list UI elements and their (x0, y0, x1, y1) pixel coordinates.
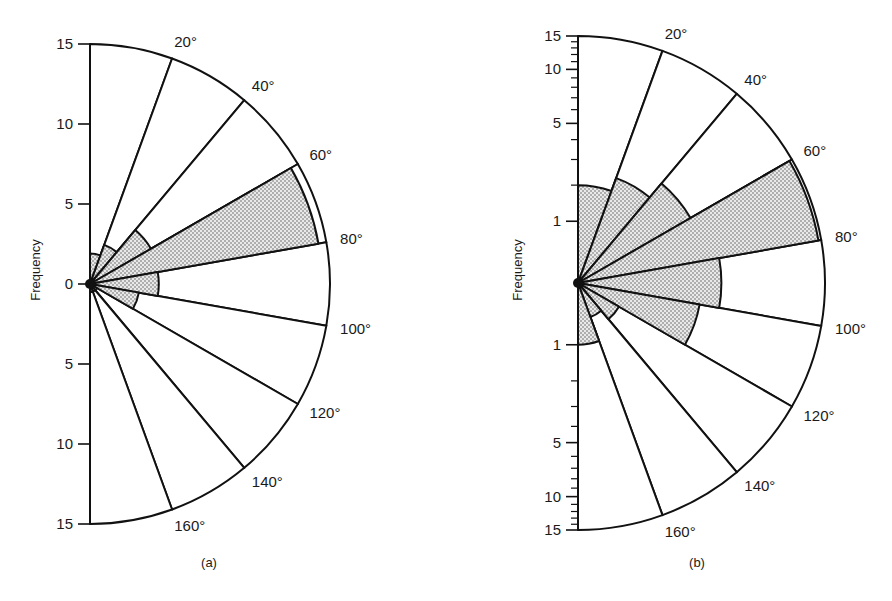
angle-label: 40° (252, 77, 275, 94)
axis-tick-label: 15 (56, 35, 73, 52)
axis-tick-label: 10 (56, 115, 73, 132)
angle-label: 60° (803, 142, 826, 159)
angle-label: 80° (340, 230, 363, 247)
rose-diagram-figure: 0510155101520°40°60°80°100°120°140°160°F… (0, 0, 892, 601)
y-axis-title: Frequency (28, 239, 43, 301)
angle-label: 100° (340, 320, 371, 337)
axis-tick-label: 15 (56, 515, 73, 532)
axis-tick-label: 15 (544, 521, 561, 538)
angle-label: 100° (835, 320, 866, 337)
angle-label: 60° (309, 146, 332, 163)
panel-label: (b) (689, 555, 705, 570)
rose-panel-a: 0510155101520°40°60°80°100°120°140°160°F… (28, 33, 371, 570)
angle-label: 40° (744, 71, 767, 88)
angle-label: 120° (309, 404, 340, 421)
y-axis-title: Frequency (510, 239, 525, 301)
axis-tick-label: 0 (65, 275, 73, 292)
axis-tick-label: 5 (553, 434, 561, 451)
angle-label: 120° (803, 407, 834, 424)
rose-panel-b: 15101515101520°40°60°80°100°120°140°160°… (510, 25, 866, 570)
axis-tick-label: 1 (553, 336, 561, 353)
angle-label: 140° (744, 477, 775, 494)
axis-tick-label: 5 (65, 195, 73, 212)
axis-tick-label: 5 (553, 114, 561, 131)
center-hub (573, 278, 583, 288)
axis-tick-label: 1 (553, 212, 561, 229)
angle-label: 140° (252, 473, 283, 490)
angle-label: 160° (174, 517, 205, 534)
angle-label: 20° (665, 25, 688, 42)
angle-label: 160° (665, 523, 696, 540)
panel-label: (a) (201, 555, 217, 570)
axis-tick-label: 10 (544, 60, 561, 77)
angle-label: 80° (835, 228, 858, 245)
axis-tick-label: 5 (65, 355, 73, 372)
axis-tick-label: 10 (56, 435, 73, 452)
axis-tick-label: 15 (544, 27, 561, 44)
angle-label: 20° (174, 33, 197, 50)
axis-tick-label: 10 (544, 488, 561, 505)
